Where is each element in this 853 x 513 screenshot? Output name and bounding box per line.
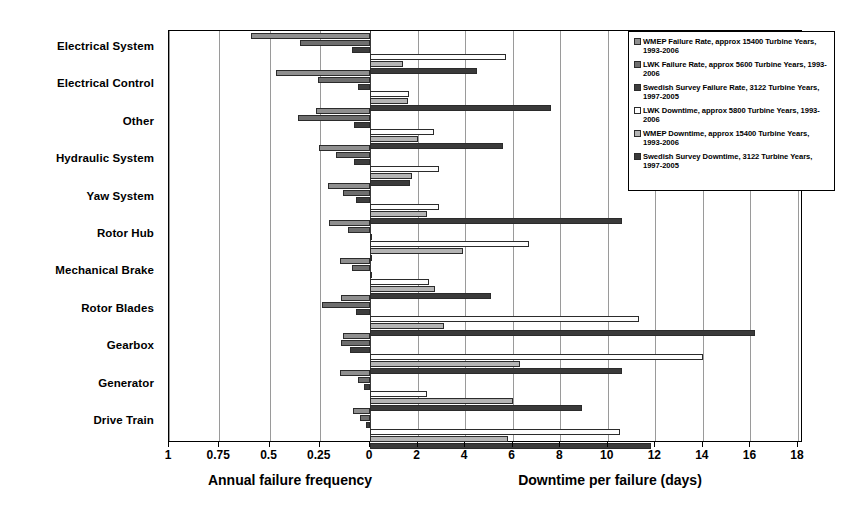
bar-4 <box>370 136 418 142</box>
bar-2 <box>370 234 372 240</box>
x-tick-label-right: 2 <box>413 448 420 462</box>
bar-2 <box>366 422 370 428</box>
bar-3 <box>370 241 529 247</box>
legend-label: Swedish Survey Downtime, 3122 Turbine Ye… <box>643 152 830 170</box>
bar-0 <box>251 33 370 39</box>
bar-5 <box>370 143 503 149</box>
gridline-right-2 <box>418 31 419 441</box>
bar-1 <box>358 377 370 383</box>
y-axis-label: Mechanical Brake <box>55 264 154 276</box>
x-tick-label-right: 10 <box>600 448 613 462</box>
bar-5 <box>370 105 551 111</box>
bar-3 <box>370 54 506 60</box>
tick-mark <box>559 442 560 447</box>
bar-1 <box>352 265 370 271</box>
bar-3 <box>370 204 439 210</box>
tick-mark <box>607 442 608 447</box>
bar-1 <box>336 152 370 158</box>
x-tick-label-right: 6 <box>508 448 515 462</box>
tick-mark <box>464 442 465 447</box>
bar-2 <box>354 159 370 165</box>
bar-3 <box>370 129 434 135</box>
y-axis-label: Electrical System <box>57 40 154 52</box>
legend-item: LWK Downtime, approx 5800 Turbine Years,… <box>634 106 830 124</box>
bar-1 <box>322 302 370 308</box>
x-tick-label-right: 12 <box>648 448 661 462</box>
bar-5 <box>370 330 755 336</box>
bar-1 <box>298 115 370 121</box>
bar-3 <box>370 91 409 97</box>
bar-1 <box>348 227 370 233</box>
legend-label: WMEP Failure Rate, approx 15400 Turbine … <box>643 37 830 55</box>
bar-0 <box>316 108 370 114</box>
bar-2 <box>364 384 370 390</box>
legend-swatch-icon <box>634 130 641 137</box>
bar-2 <box>370 272 372 278</box>
bar-3 <box>370 316 639 322</box>
bar-4 <box>370 398 513 404</box>
bar-3 <box>370 354 703 360</box>
x-tick-label-left: 0.5 <box>260 448 277 462</box>
bar-1 <box>318 77 370 83</box>
bar-3 <box>370 279 429 285</box>
legend-label: Swedish Survey Failure Rate, 3122 Turbin… <box>643 83 830 101</box>
y-axis-label: Drive Train <box>93 414 154 426</box>
x-axis: 10.750.50.25024681012141618 <box>168 442 802 462</box>
y-axis-label: Yaw System <box>87 190 154 202</box>
bar-2 <box>354 122 370 128</box>
y-axis-label: Generator <box>98 377 154 389</box>
bar-5 <box>370 180 410 186</box>
bar-2 <box>356 197 370 203</box>
bar-1 <box>343 190 370 196</box>
legend-swatch-icon <box>634 107 641 114</box>
bar-0 <box>340 258 370 264</box>
bar-0 <box>341 295 370 301</box>
legend-swatch-icon <box>634 153 641 160</box>
chart-legend: WMEP Failure Rate, approx 15400 Turbine … <box>628 31 835 191</box>
legend-item: WMEP Downtime, approx 15400 Turbine Year… <box>634 129 830 147</box>
right-axis-title: Downtime per failure (days) <box>518 472 702 488</box>
bar-4 <box>370 323 444 329</box>
y-axis-label: Electrical Control <box>57 77 154 89</box>
tick-mark <box>702 442 703 447</box>
bar-4 <box>370 436 508 442</box>
x-tick-label-right: 16 <box>743 448 756 462</box>
bar-0 <box>353 408 370 414</box>
tick-mark <box>797 442 798 447</box>
tick-mark <box>654 442 655 447</box>
bar-4 <box>370 61 403 67</box>
bar-4 <box>370 173 412 179</box>
tick-mark <box>369 442 370 447</box>
bar-2 <box>358 84 370 90</box>
gridline-left-1 <box>169 31 170 441</box>
bar-1 <box>300 40 370 46</box>
bar-2 <box>356 309 370 315</box>
y-axis-label: Rotor Hub <box>97 227 154 239</box>
left-axis-title: Annual failure frequency <box>208 472 372 488</box>
gridline-right-4 <box>465 31 466 441</box>
bar-0 <box>329 220 370 226</box>
bar-4 <box>370 248 463 254</box>
x-tick-label-left: 1 <box>165 448 172 462</box>
y-axis-label: Other <box>123 115 154 127</box>
x-tick-label-right: 18 <box>790 448 803 462</box>
tick-mark <box>749 442 750 447</box>
x-tick-label-left: 0.25 <box>307 448 330 462</box>
gridline-right-8 <box>560 31 561 441</box>
legend-label: LWK Downtime, approx 5800 Turbine Years,… <box>643 106 830 124</box>
bar-5 <box>370 293 491 299</box>
bar-3 <box>370 429 620 435</box>
bar-3 <box>370 166 439 172</box>
gridline-left-0.5 <box>270 31 271 441</box>
bar-2 <box>352 47 370 53</box>
tick-mark <box>319 442 320 447</box>
legend-swatch-icon <box>634 61 641 68</box>
bar-4 <box>370 286 435 292</box>
bar-3 <box>370 391 427 397</box>
x-tick-label-right: 14 <box>695 448 708 462</box>
bar-0 <box>319 145 370 151</box>
x-tick-label-left: 0.75 <box>207 448 230 462</box>
legend-swatch-icon <box>634 84 641 91</box>
bar-5 <box>370 255 372 261</box>
bar-0 <box>343 333 370 339</box>
